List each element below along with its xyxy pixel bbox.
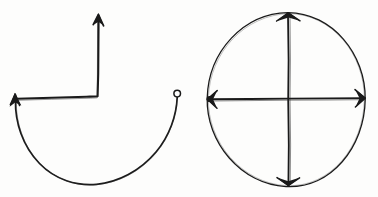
figure-right-circle-with-crossed-diameters	[207, 12, 367, 187]
arc-endpoint-open-circle-icon	[174, 90, 181, 97]
sketch-canvas	[0, 0, 378, 197]
semicircle-arc	[15, 98, 177, 185]
figure-left-semicircle-with-corner-arrow	[10, 13, 181, 185]
corner-polyline	[17, 17, 99, 99]
semicircle-arc-overstroke	[16, 99, 177, 185]
horizontal-diameter	[210, 98, 364, 99]
sketch-drawing	[0, 0, 378, 197]
left-center-filled-dot-icon	[207, 96, 213, 102]
corner-polyline-overstroke	[18, 18, 98, 100]
